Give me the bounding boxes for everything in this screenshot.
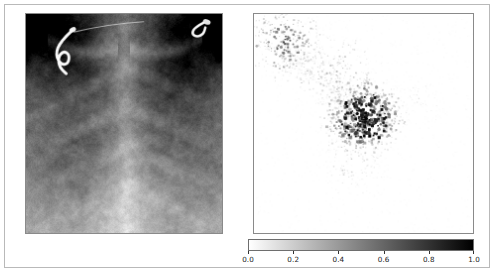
chest-xray-image — [26, 14, 222, 233]
colorbar-tick-label: 1.0 — [468, 254, 480, 265]
colorbar-tick-label: 0.8 — [423, 254, 435, 265]
figure-root: 0.00.20.40.60.81.0 — [0, 0, 499, 280]
colorbar-tick-label: 0.2 — [287, 254, 299, 265]
colorbar-tick-label: 0.4 — [333, 254, 345, 265]
colorbar-tick-label: 0.0 — [242, 254, 254, 265]
colorbar-tick-label: 0.6 — [378, 254, 390, 265]
saliency-colorbar — [248, 239, 474, 251]
colorbar-tick-axis: 0.00.20.40.60.81.0 — [248, 251, 474, 267]
panel-saliency-map — [253, 13, 474, 234]
panel-chest-xray — [25, 13, 223, 234]
colorbar-gradient — [248, 239, 474, 251]
saliency-map-image — [254, 14, 473, 233]
